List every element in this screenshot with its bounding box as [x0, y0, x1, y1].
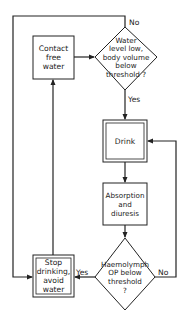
- stop-label: Stop drinking, avoid water: [33, 255, 74, 297]
- stop-line-1: Stop: [45, 258, 62, 267]
- decision2-no-label: No: [158, 268, 168, 277]
- stop-line-3: avoid: [43, 276, 64, 285]
- decision1-no-label: No: [129, 18, 139, 27]
- decision1-label: Water level low, body volume below thres…: [95, 33, 157, 83]
- drink-label: Drink: [103, 120, 147, 162]
- absorption-label: Absorption and diuresis: [103, 183, 147, 225]
- contact-line-2: free: [46, 53, 61, 62]
- stop-line-4: water: [43, 285, 65, 294]
- decision2-label: Haemolymph OP below threshold ?: [95, 258, 155, 298]
- contact-line-3: water: [43, 62, 65, 71]
- absorption-line-2: and: [118, 200, 132, 209]
- decision2-line-4: ?: [123, 287, 127, 296]
- absorption-line-3: diuresis: [111, 209, 139, 218]
- decision2-yes-label: Yes: [76, 268, 88, 277]
- stop-line-2: drinking,: [37, 267, 70, 276]
- decision1-line-5: threshold ?: [106, 71, 146, 79]
- drink-line-1: Drink: [115, 137, 135, 146]
- contact-label: Contact free water: [33, 36, 74, 79]
- edge-decision2-no-to-drink: [148, 141, 176, 277]
- contact-line-1: Contact: [39, 44, 69, 53]
- absorption-line-1: Absorption: [106, 191, 145, 200]
- decision1-yes-label: Yes: [128, 95, 140, 104]
